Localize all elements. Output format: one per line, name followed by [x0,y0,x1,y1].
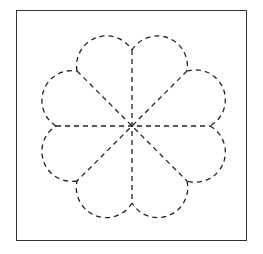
petal-arc-3 [187,126,225,182]
petal-arc-1 [132,36,187,71]
petal-arc-7 [42,71,77,126]
petal-arc-8 [77,36,132,71]
petal-arc-2 [187,70,225,126]
flower-diagram [0,0,263,254]
petal-arc-5 [76,181,132,218]
petal-arc-6 [42,126,77,181]
petal-arc-4 [132,181,188,218]
